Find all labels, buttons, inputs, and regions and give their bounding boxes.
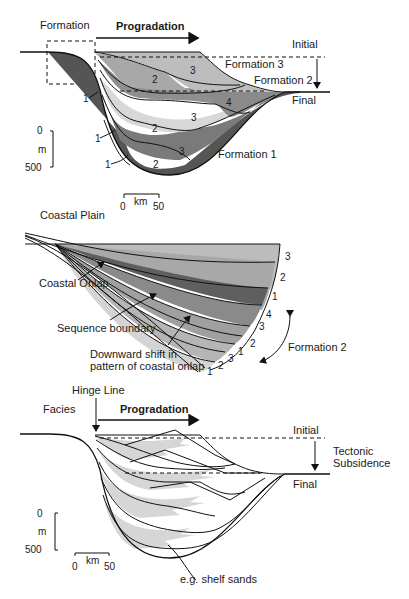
layer-number: 3	[179, 146, 185, 157]
wedge-number: 1	[272, 291, 278, 302]
formation2-label: Formation 2	[254, 74, 313, 86]
layer-number: 2	[152, 74, 158, 85]
depth-top-label: 0	[37, 125, 43, 136]
coastal-plain-panel: Coastal Plain Coastal Onlap Sequence bou…	[25, 209, 347, 377]
wedge-number: 4	[266, 309, 272, 320]
facies-panel-title: Facies	[43, 403, 76, 415]
coastal-plain-title: Coastal Plain	[40, 209, 105, 221]
layer-number: 4	[226, 97, 232, 108]
depth-scale: 0 m 500	[25, 508, 58, 555]
wedge-number: 1	[238, 346, 244, 357]
distance-scale: 0 km 50	[72, 553, 116, 572]
depth-scale: 0 m 500	[25, 125, 53, 173]
stratigraphy-diagram: Formation Progradation Initial Formation…	[0, 0, 409, 599]
formation3-label: Formation 3	[225, 58, 284, 70]
formation1-label: Formation 1	[218, 148, 277, 160]
progradation-label: Progradation	[120, 403, 189, 415]
distance-unit-label: km	[86, 555, 99, 566]
depth-unit-label: m	[38, 144, 46, 155]
wedge-number: 2	[280, 272, 286, 283]
distance-left-label: 0	[120, 201, 126, 212]
initial-label: Initial	[292, 38, 318, 50]
downward-shift-label-line2: pattern of coastal onlap	[90, 360, 204, 372]
wedge-number: 3	[285, 251, 291, 262]
wedge-number: 2	[250, 338, 256, 349]
formation-panel-title: Formation	[40, 19, 90, 31]
hinge-line-label: Hinge Line	[72, 384, 125, 396]
layer-number: 3	[191, 112, 197, 123]
final-label: Final	[293, 478, 317, 490]
distance-unit-label: km	[134, 196, 147, 207]
distance-right-label: 50	[153, 201, 165, 212]
distance-right-label: 50	[104, 561, 116, 572]
layer-number: 1	[105, 159, 111, 170]
distance-scale: 0 km 50	[120, 194, 165, 212]
depth-bottom-label: 500	[25, 544, 42, 555]
final-label: Final	[292, 94, 316, 106]
layer-number: 2	[153, 159, 159, 170]
wedge-number: 3	[228, 353, 234, 364]
initial-label: Initial	[293, 424, 319, 436]
formation2-label: Formation 2	[288, 341, 347, 353]
progradation-label: Progradation	[116, 20, 185, 32]
facies-panel: Hinge Line Facies Progradation Initial T…	[20, 384, 391, 585]
wedge-number: 1	[207, 366, 213, 377]
layer-number: 2	[152, 123, 158, 134]
depth-bottom-label: 500	[25, 162, 42, 173]
distance-left-label: 0	[72, 561, 78, 572]
formation-panel: Formation Progradation Initial Formation…	[20, 19, 330, 212]
depth-unit-label: m	[38, 526, 46, 537]
wedge-number: 2	[218, 360, 224, 371]
tectonic-label: Tectonic	[333, 445, 374, 457]
sequence-boundary-label: Sequence boundary	[57, 322, 156, 334]
depth-top-label: 0	[37, 508, 43, 519]
layer-number: 1	[95, 133, 101, 144]
subsidence-label: Subsidence	[333, 457, 391, 469]
layer-number: 1	[83, 93, 89, 104]
layer-number: 3	[190, 65, 196, 76]
downward-shift-label-line1: Downward shift in	[90, 348, 177, 360]
wedge-number: 3	[259, 321, 265, 332]
coastal-onlap-label: Coastal Onlap	[39, 277, 109, 289]
basin-floor-line	[20, 434, 330, 558]
shelf-sands-label: e.g. shelf sands	[180, 573, 258, 585]
